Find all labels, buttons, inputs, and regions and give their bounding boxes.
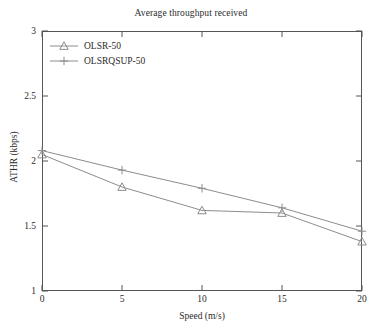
x-tick-label: 5 (107, 294, 137, 304)
legend-marker-sample (50, 39, 78, 53)
y-tick-label: 3 (0, 26, 36, 36)
chart-figure: Average throughput received 11.522.53 05… (0, 0, 382, 336)
legend-label: OLSRQSUP-50 (78, 56, 145, 66)
x-tick-label: 20 (347, 294, 377, 304)
plot-canvas (42, 31, 362, 291)
legend-item-1[interactable]: OLSR-50 (50, 38, 180, 53)
x-tick-label: 0 (27, 294, 57, 304)
series-line (42, 155, 362, 242)
x-axis-label: Speed (m/s) (42, 311, 362, 321)
series-1 (38, 150, 366, 245)
x-tick-label: 15 (267, 294, 297, 304)
y-axis-label: ATHR (kbps) (9, 97, 19, 217)
chart-title: Average throughput received (0, 8, 382, 18)
legend-item-2[interactable]: OLSRQSUP-50 (50, 53, 180, 68)
legend-marker-sample (50, 54, 78, 68)
series-2 (38, 146, 366, 235)
chart-legend: OLSR-50OLSRQSUP-50 (50, 38, 180, 68)
y-tick-label: 1.5 (0, 221, 36, 231)
x-tick-label: 10 (187, 294, 217, 304)
legend-label: OLSR-50 (78, 41, 121, 51)
